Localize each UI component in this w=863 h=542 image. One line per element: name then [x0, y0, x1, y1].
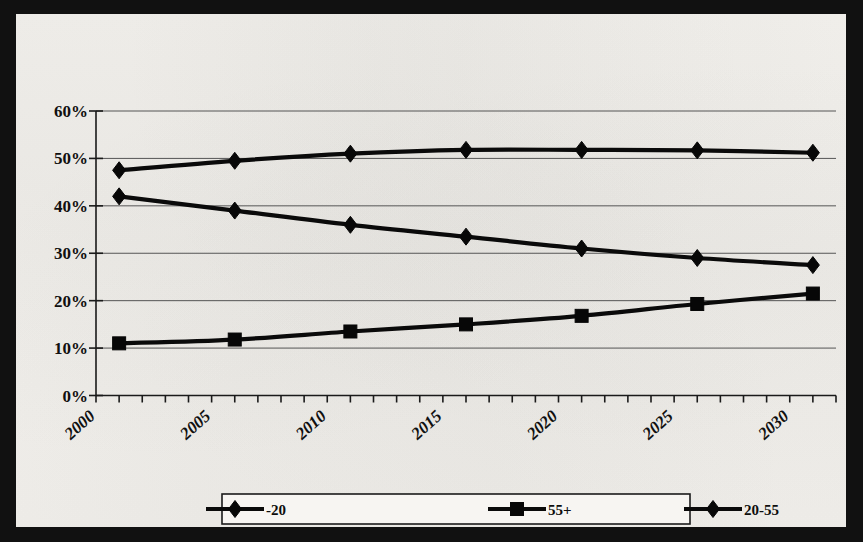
chart-page: 0%10%20%30%40%50%60% 2000200520102015202… [0, 0, 863, 542]
data-point-marker [575, 309, 588, 322]
data-point-marker [691, 297, 704, 310]
y-axis-tick-label: 40% [54, 197, 88, 216]
series-20-55 [113, 141, 820, 178]
data-point-marker [113, 188, 126, 205]
y-axis-tick-label: 10% [54, 339, 88, 358]
data-point-marker [344, 145, 357, 162]
data-point-marker [691, 249, 704, 266]
data-point-marker [460, 318, 473, 331]
data-point-marker [228, 333, 241, 346]
chart-legend: -2055+20-55 [206, 494, 779, 524]
data-point-marker [228, 152, 241, 169]
x-axis-tick-label: 2010 [291, 406, 330, 444]
data-point-marker [691, 142, 704, 159]
data-point-marker [344, 216, 357, 233]
x-axis-tick-labels: 2000200520102015202020252030 [60, 406, 793, 444]
data-point-marker [460, 228, 473, 245]
x-axis-tick-label: 2015 [407, 406, 446, 444]
legend-label: -20 [266, 502, 286, 518]
data-point-marker [228, 202, 241, 219]
legend-label: 20-55 [744, 502, 779, 518]
x-axis-tick-label: 2020 [522, 406, 561, 444]
series-55+ [113, 287, 820, 350]
y-axis-tick-label: 60% [54, 102, 88, 121]
legend-box [222, 494, 690, 524]
data-point-marker [460, 141, 473, 158]
y-axis-tick-label: 50% [54, 149, 88, 168]
data-point-marker [575, 141, 588, 158]
data-point-marker [575, 240, 588, 257]
y-axis-tick-label: 0% [63, 387, 89, 406]
series-group [113, 141, 820, 349]
x-axis-tick-label: 2005 [176, 406, 215, 444]
x-axis-tick-label: 2025 [638, 406, 677, 444]
chart-figure: 0%10%20%30%40%50%60% 2000200520102015202… [0, 0, 863, 542]
y-axis-tick-label: 30% [54, 244, 88, 263]
data-point-marker [806, 287, 819, 300]
data-point-marker [806, 257, 819, 274]
series--20 [113, 188, 820, 274]
data-point-marker [113, 162, 126, 179]
y-axis-tick-label: 20% [54, 292, 88, 311]
legend-item-20-55[interactable]: 20-55 [684, 501, 779, 519]
x-axis-tick-label: 2030 [754, 406, 793, 444]
legend-swatch-marker [511, 503, 524, 516]
x-axis-tick-label: 2000 [60, 406, 99, 444]
chart-svg: 0%10%20%30%40%50%60% 2000200520102015202… [0, 0, 863, 542]
data-point-marker [344, 325, 357, 338]
x-axis-ticks [96, 396, 836, 403]
legend-label: 55+ [548, 502, 572, 518]
legend-swatch-marker [707, 501, 720, 518]
data-point-marker [113, 337, 126, 350]
